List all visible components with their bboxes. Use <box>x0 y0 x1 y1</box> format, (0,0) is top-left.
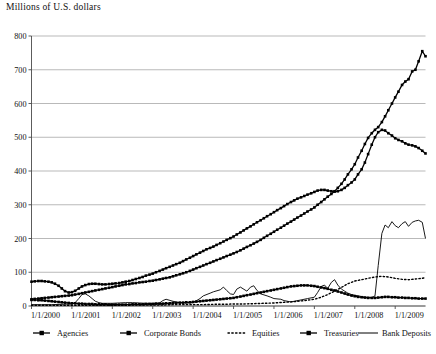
y-tick-label: 200 <box>14 235 26 244</box>
x-tick-label: 1/1/2005 <box>233 311 262 320</box>
series-marker <box>179 262 182 265</box>
series-marker <box>195 267 198 270</box>
series-marker <box>394 137 397 140</box>
series-marker <box>266 235 269 238</box>
series-marker <box>239 249 242 252</box>
series-marker <box>61 287 64 290</box>
legend-item-treasuries[interactable]: Treasuries <box>300 329 359 338</box>
series-marker <box>256 292 259 295</box>
series-marker <box>212 260 215 263</box>
legend-label: Treasuries <box>324 329 359 338</box>
series-marker <box>246 294 249 297</box>
series-marker <box>44 297 47 300</box>
series-marker <box>313 206 316 209</box>
series-marker <box>74 290 77 293</box>
series-marker <box>235 251 238 254</box>
series-marker <box>273 230 276 233</box>
series-marker <box>111 282 114 285</box>
series-marker <box>394 296 397 299</box>
series-marker <box>168 266 171 269</box>
series-marker <box>121 284 124 287</box>
series-marker <box>290 285 293 288</box>
series-marker <box>290 220 293 223</box>
series-marker <box>374 136 377 139</box>
legend-item-equities[interactable]: Equities <box>228 329 279 338</box>
series-marker <box>266 215 269 218</box>
chart-axis-title: Millions of U.S. dollars <box>6 2 101 12</box>
series-marker <box>30 299 33 302</box>
series-marker <box>293 218 296 221</box>
chart-legend: AgenciesCorporate BondsEquitiesTreasurie… <box>33 329 431 338</box>
series-marker <box>61 301 64 304</box>
legend-label: Agencies <box>57 329 88 338</box>
series-marker <box>404 297 407 300</box>
series-marker <box>310 284 313 287</box>
series-marker <box>316 203 319 206</box>
series-marker <box>407 78 410 81</box>
series-marker <box>209 299 212 302</box>
series-marker <box>205 263 208 266</box>
series-marker <box>377 296 380 299</box>
series-marker <box>381 129 384 132</box>
series-marker <box>54 296 57 299</box>
series-marker <box>64 301 67 304</box>
series-marker <box>64 295 67 298</box>
series-marker <box>77 302 80 305</box>
x-tick-label: 1/1/2009 <box>395 311 424 320</box>
series-marker <box>50 281 53 284</box>
series-marker <box>131 282 134 285</box>
series-marker <box>239 295 242 298</box>
series-marker <box>246 246 249 249</box>
series-marker <box>172 275 175 278</box>
y-tick-label: 300 <box>14 201 26 210</box>
legend-item-corporate-bonds[interactable]: Corporate Bonds <box>120 329 201 338</box>
legend-item-bank-deposits[interactable]: Bank Deposits <box>358 329 431 338</box>
series-marker <box>276 209 279 212</box>
series-marker <box>165 267 168 270</box>
series-marker <box>162 302 165 305</box>
series-marker <box>374 297 377 300</box>
series-marker <box>401 140 404 143</box>
series-marker <box>50 296 53 299</box>
x-tick-label: 1/1/2001 <box>71 311 100 320</box>
series-marker <box>404 80 407 83</box>
series-marker <box>330 190 333 193</box>
series-marker <box>192 255 195 258</box>
series-marker <box>111 286 114 289</box>
series-marker <box>189 270 192 273</box>
series-marker <box>367 153 370 156</box>
series-marker <box>313 285 316 288</box>
line-chart: 0100200300400500600700800 1/1/20001/1/20… <box>0 0 436 354</box>
series-marker <box>88 303 91 306</box>
series-corporate-bonds <box>30 50 427 301</box>
series-marker <box>424 55 427 58</box>
series-marker <box>104 287 107 290</box>
series-marker <box>71 291 74 294</box>
series-marker <box>252 293 255 296</box>
legend-item-agencies[interactable]: Agencies <box>33 329 88 338</box>
series-marker <box>381 121 384 124</box>
series-marker <box>151 272 154 275</box>
series-marker <box>300 214 303 217</box>
series-marker <box>145 280 148 283</box>
series-marker <box>212 299 215 302</box>
series-marker <box>67 291 70 294</box>
y-tick-label: 100 <box>14 268 26 277</box>
series-marker <box>343 292 346 295</box>
series-marker <box>81 302 84 305</box>
series-marker <box>151 279 154 282</box>
series-marker <box>84 303 87 306</box>
x-tick-label: 1/1/2003 <box>152 311 181 320</box>
series-marker <box>296 216 299 219</box>
series-marker <box>175 274 178 277</box>
series-marker <box>286 222 289 225</box>
series-marker <box>384 129 387 132</box>
y-tick-label: 700 <box>14 66 26 75</box>
series-marker <box>212 245 215 248</box>
series-marker <box>215 259 218 262</box>
series-marker <box>276 288 279 291</box>
series-marker <box>269 213 272 216</box>
series-marker <box>421 149 424 152</box>
series-marker <box>273 289 276 292</box>
series-marker <box>350 168 353 171</box>
